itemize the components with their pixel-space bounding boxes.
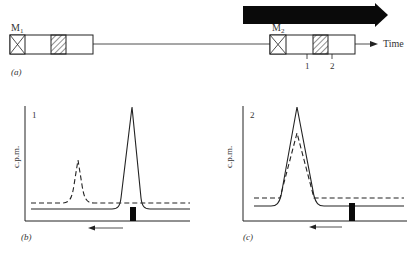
panel-a-label: (a) (11, 67, 22, 77)
solid-curve (254, 107, 404, 206)
gene-box-1 (10, 35, 93, 54)
time-arrow-icon (370, 41, 378, 47)
solid-curve (31, 107, 190, 209)
left-arrow-icon (88, 226, 95, 231)
tick-1-label: 1 (305, 61, 310, 71)
y-axis-label: c.p.m. (11, 146, 21, 168)
panel-number: 1 (32, 110, 37, 120)
dashed-curve (254, 133, 404, 198)
marker1-label: M1 (11, 22, 24, 35)
big-arrow (243, 3, 388, 27)
diagram: M1 M2 1 2 Time (a) (0, 0, 419, 254)
y-axis-label: c.p.m. (224, 146, 234, 168)
marker-bar (349, 203, 355, 221)
panel-b-label: (b) (21, 232, 32, 242)
hatched-region (313, 35, 328, 54)
panel-b: 1 c.p.m. (b) (11, 106, 190, 242)
panel-a: M1 M2 1 2 Time (a) (10, 22, 404, 77)
panel-c: 2 c.p.m. (c) (224, 106, 407, 242)
gene-box-2 (270, 35, 355, 54)
tick-2-label: 2 (330, 61, 335, 71)
marker-bar (130, 207, 136, 221)
time-label: Time (383, 38, 404, 49)
panel-number: 2 (250, 110, 255, 120)
left-arrow-icon (309, 225, 316, 230)
panel-c-label: (c) (243, 232, 253, 242)
hatched-region (51, 35, 66, 54)
dashed-curve (31, 160, 190, 203)
